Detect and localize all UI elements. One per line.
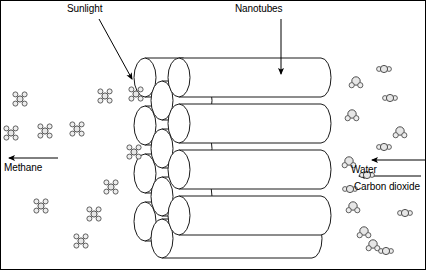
methane-molecule-9-hydrogen-4 bbox=[96, 216, 101, 221]
diagram-canvas bbox=[1, 1, 426, 270]
methane-molecule-3-carbon bbox=[74, 126, 80, 132]
methane-molecule-6-hydrogen-3 bbox=[127, 154, 132, 159]
methane-molecule-7 bbox=[104, 180, 118, 194]
nanotube-bundle bbox=[134, 58, 331, 258]
methane-molecule-7-carbon bbox=[108, 184, 114, 190]
water-molecule-1-hydrogen-1 bbox=[349, 83, 354, 88]
methane-molecule-4-carbon bbox=[102, 93, 108, 99]
methane-molecule-5-hydrogen-2 bbox=[138, 87, 143, 92]
water-molecule-5-hydrogen-1 bbox=[346, 208, 351, 213]
water-molecule-7-hydrogen-1 bbox=[357, 233, 362, 238]
front-tube-2 bbox=[168, 104, 331, 143]
methane-molecule-8-carbon bbox=[38, 203, 44, 209]
water-molecule-7 bbox=[357, 227, 371, 238]
front-tube-1-opening bbox=[168, 58, 190, 97]
methane-molecule-6 bbox=[127, 145, 141, 159]
methane-molecule-11 bbox=[4, 126, 18, 140]
methane-molecule-1-hydrogen-3 bbox=[13, 101, 18, 106]
sunlight-label: Sunlight bbox=[67, 3, 102, 14]
methane-molecule-10-hydrogen-2 bbox=[83, 234, 88, 239]
front-tube-3 bbox=[168, 150, 331, 189]
water-molecule-1 bbox=[349, 77, 363, 88]
methane-molecule-7-hydrogen-4 bbox=[113, 189, 118, 194]
carbon-dioxide-molecule-6-carbon bbox=[382, 247, 389, 254]
nanotubes-label: Nanotubes bbox=[235, 3, 282, 14]
methane-molecule-2-carbon bbox=[42, 128, 48, 134]
methane-molecule-9 bbox=[87, 207, 101, 221]
carbon-dioxide-molecule-2 bbox=[383, 94, 398, 101]
methane-molecule-2-hydrogen-3 bbox=[38, 133, 43, 138]
methane-molecule-11-hydrogen-3 bbox=[4, 135, 9, 140]
water-molecule-6 bbox=[366, 240, 380, 251]
water-molecule-5 bbox=[346, 202, 360, 213]
methane-molecule-8-hydrogen-2 bbox=[43, 199, 48, 204]
methane-molecule-5-carbon bbox=[133, 91, 139, 97]
methane-molecule-1-carbon bbox=[17, 96, 23, 102]
methane-molecule-10 bbox=[74, 234, 88, 248]
carbon-dioxide-molecule-5-carbon bbox=[401, 209, 408, 216]
carbon-dioxide-molecule-2-carbon bbox=[386, 94, 393, 101]
carbon-dioxide-molecule-3-carbon bbox=[380, 143, 387, 150]
methane-molecule-3-hydrogen-3 bbox=[70, 131, 75, 136]
methane-molecule-11-hydrogen-2 bbox=[13, 126, 18, 131]
methane-molecule-3-hydrogen-4 bbox=[79, 131, 84, 136]
methane-molecule-4-hydrogen-2 bbox=[107, 89, 112, 94]
methane-molecule-4-hydrogen-1 bbox=[98, 89, 103, 94]
carbon-dioxide-molecule-5 bbox=[398, 209, 413, 216]
water-molecule-6-hydrogen-1 bbox=[366, 246, 371, 251]
methane-molecule-3-hydrogen-2 bbox=[79, 122, 84, 127]
methane-molecule-4 bbox=[98, 89, 112, 103]
methane-molecule-2-hydrogen-4 bbox=[47, 133, 52, 138]
methane-molecule-7-hydrogen-2 bbox=[113, 180, 118, 185]
methane-molecule-8 bbox=[34, 199, 48, 213]
methane-molecule-8-hydrogen-3 bbox=[34, 208, 39, 213]
front-tube-4 bbox=[168, 196, 331, 235]
methane-molecule-9-hydrogen-3 bbox=[87, 216, 92, 221]
methane-molecule-9-carbon bbox=[91, 211, 97, 217]
water-molecule-1-hydrogen-2 bbox=[358, 83, 363, 88]
methane-molecule-1-hydrogen-1 bbox=[13, 92, 18, 97]
methane-molecule-2-hydrogen-1 bbox=[38, 124, 43, 129]
carbon-dioxide-label: Carbon dioxide bbox=[354, 181, 420, 192]
front-tube-2-body bbox=[179, 104, 331, 143]
methane-molecule-3-hydrogen-1 bbox=[70, 122, 75, 127]
methane-molecule-9-hydrogen-2 bbox=[96, 207, 101, 212]
methane-molecule-10-hydrogen-3 bbox=[74, 243, 79, 248]
water-label: Water bbox=[351, 164, 377, 175]
water-molecule-4 bbox=[393, 127, 407, 138]
front-tube-4-body bbox=[179, 196, 331, 235]
methane-molecule-11-carbon bbox=[8, 130, 14, 136]
methane-molecule-1 bbox=[13, 92, 27, 106]
water-molecule-4-hydrogen-2 bbox=[402, 133, 407, 138]
carbon-dioxide-molecule-1 bbox=[377, 65, 392, 72]
methane-molecule-4-hydrogen-3 bbox=[98, 98, 103, 103]
sunlight-arrow bbox=[99, 19, 132, 79]
methane-molecule-6-hydrogen-4 bbox=[136, 154, 141, 159]
methane-molecule-10-carbon bbox=[78, 238, 84, 244]
front-tube-2-opening bbox=[168, 104, 190, 143]
nanotube-diagram: Sunlight Nanotubes Water Carbon dioxide … bbox=[0, 0, 426, 270]
methane-molecule-11-hydrogen-1 bbox=[4, 126, 9, 131]
methane-molecule-2 bbox=[38, 124, 52, 138]
carbon-dioxide-molecule-4-carbon bbox=[346, 185, 353, 192]
front-tube-3-opening bbox=[168, 150, 190, 189]
methane-molecule-10-hydrogen-1 bbox=[74, 234, 79, 239]
front-tube-3-body bbox=[179, 150, 331, 189]
methane-molecule-5-hydrogen-4 bbox=[138, 96, 143, 101]
methane-molecule-6-hydrogen-2 bbox=[136, 145, 141, 150]
front-tube-4-opening bbox=[168, 196, 190, 235]
methane-molecule-11-hydrogen-4 bbox=[13, 135, 18, 140]
methane-molecule-5-hydrogen-1 bbox=[129, 87, 134, 92]
water-molecule-7-hydrogen-2 bbox=[366, 233, 371, 238]
methane-molecule-6-carbon bbox=[131, 149, 137, 155]
methane-molecule-6-hydrogen-1 bbox=[127, 145, 132, 150]
methane-molecule-10-hydrogen-4 bbox=[83, 243, 88, 248]
methane-molecule-1-hydrogen-4 bbox=[22, 101, 27, 106]
water-molecule-2-hydrogen-1 bbox=[345, 116, 350, 121]
methane-molecule-7-hydrogen-1 bbox=[104, 180, 109, 185]
methane-molecule-8-hydrogen-4 bbox=[43, 208, 48, 213]
methane-molecule-8-hydrogen-1 bbox=[34, 199, 39, 204]
methane-molecule-9-hydrogen-1 bbox=[87, 207, 92, 212]
methane-molecule-1-hydrogen-2 bbox=[22, 92, 27, 97]
water-molecule-2-hydrogen-2 bbox=[354, 116, 359, 121]
